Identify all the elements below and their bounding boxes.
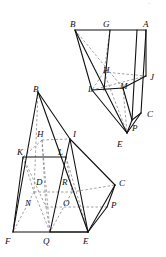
edge-segment bbox=[104, 30, 110, 90]
upper-vertex-label-l: L bbox=[88, 85, 93, 94]
upper-vertex-label-c: C bbox=[147, 110, 153, 119]
page-artifact-mark: · bbox=[148, 0, 150, 8]
lower-vertex-label-c: C bbox=[119, 179, 125, 188]
edge-segment bbox=[38, 92, 88, 232]
lower-vertex-label-f: F bbox=[5, 237, 11, 246]
lower-vertex-label-h: H bbox=[37, 130, 44, 139]
edge-segment bbox=[92, 90, 127, 133]
edge-segment bbox=[46, 207, 50, 232]
lower-vertex-label-o: O bbox=[63, 199, 70, 208]
edge-segment bbox=[88, 207, 107, 232]
upper-vertex-label-j: J bbox=[150, 73, 154, 82]
upper-vertex-label-g: G bbox=[103, 20, 110, 29]
lower-figure-visible-edges bbox=[13, 92, 115, 232]
diagram-canvas: BGAHJLMCPE BHIKLDRCNOPFQE · bbox=[0, 0, 166, 257]
lower-vertex-label-d: D bbox=[36, 178, 43, 187]
edge-segment bbox=[13, 157, 23, 232]
edge-segment bbox=[50, 157, 66, 232]
edge-segment bbox=[42, 139, 70, 140]
lower-vertex-label-k: K bbox=[17, 148, 23, 157]
lower-vertex-label-q: Q bbox=[43, 237, 50, 246]
edge-segment bbox=[23, 140, 42, 157]
edge-segment bbox=[104, 72, 146, 76]
edge-segment bbox=[66, 139, 70, 157]
edge-segment bbox=[70, 139, 115, 185]
lower-vertex-label-l: L bbox=[58, 148, 63, 157]
edge-segment bbox=[42, 140, 50, 232]
upper-figure-visible-edges bbox=[75, 30, 146, 133]
edge-segment bbox=[123, 88, 132, 120]
lower-vertex-label-n: N bbox=[25, 199, 31, 208]
edge-segment bbox=[66, 157, 88, 232]
upper-vertex-label-e: E bbox=[117, 140, 123, 149]
upper-vertex-label-a: A bbox=[143, 20, 149, 29]
lower-vertex-label-b: B bbox=[33, 85, 39, 94]
edge-segment bbox=[70, 139, 88, 232]
upper-vertex-label-m: M bbox=[120, 82, 128, 91]
edge-segment bbox=[13, 92, 38, 232]
lower-vertex-label-e: E bbox=[83, 237, 89, 246]
edge-segment bbox=[75, 30, 123, 88]
upper-vertex-label-h: H bbox=[103, 66, 110, 75]
geometry-svg bbox=[0, 0, 166, 257]
edge-segment bbox=[75, 30, 92, 90]
lower-vertex-label-p: P bbox=[111, 201, 117, 210]
lower-vertex-label-i: I bbox=[73, 130, 76, 139]
edge-segment bbox=[141, 30, 146, 113]
lower-vertex-label-r: R bbox=[62, 178, 68, 187]
edge-segment bbox=[23, 157, 34, 192]
upper-vertex-label-p: P bbox=[132, 124, 138, 133]
upper-vertex-label-b: B bbox=[70, 20, 76, 29]
edge-segment bbox=[72, 185, 115, 192]
